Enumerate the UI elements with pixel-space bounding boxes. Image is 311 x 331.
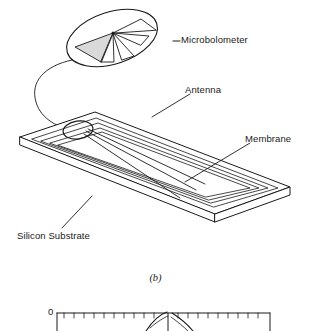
bolometer-feed-point [112, 32, 115, 35]
label-antenna: Antenna [185, 85, 221, 95]
leader-line-antenna [152, 94, 190, 117]
plot-y-axis-zero-label: 0 [48, 306, 53, 317]
wedge-upper-right [113, 19, 156, 33]
plot-curve-left-fragment [146, 312, 167, 331]
next-figure-plot-frame [57, 312, 270, 331]
figure-container: Microbolometer Antenna Membrane Silicon … [0, 0, 311, 331]
label-microbolometer: Microbolometer [181, 35, 248, 45]
silicon-substrate-slab [20, 112, 290, 222]
magnifier-ellipse [59, 0, 164, 77]
figure-caption: (b) [0, 272, 311, 283]
plot-curve-right-fragment [172, 313, 193, 331]
label-silicon-substrate: Silicon Substrate [17, 231, 90, 241]
leader-line-silicon-substrate [62, 196, 92, 228]
magnifier-connector-line [35, 60, 74, 131]
label-membrane: Membrane [245, 134, 291, 144]
microbolometer-detail-inset [59, 0, 164, 77]
plot-curve-right-fragment-secondary [171, 317, 188, 331]
